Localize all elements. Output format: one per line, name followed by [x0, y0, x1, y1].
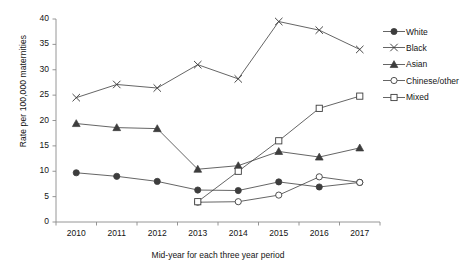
- legend-item-label: Chinese/other: [406, 76, 459, 86]
- series-black: [73, 18, 364, 102]
- legend-item-label: Mixed: [406, 92, 429, 102]
- open-square-icon: [383, 92, 405, 103]
- legend-item-label: White: [406, 27, 428, 37]
- legend-item-mixed[interactable]: Mixed: [383, 92, 459, 103]
- legend-item-asian[interactable]: Asian: [383, 59, 459, 70]
- open-circle-icon: [383, 75, 405, 86]
- series-white: [73, 170, 363, 194]
- filled-triangle-icon: [383, 59, 405, 70]
- axis-lines: [53, 19, 381, 226]
- filled-circle-icon: [383, 26, 405, 37]
- legend-item-white[interactable]: White: [383, 26, 459, 37]
- legend: WhiteBlackAsianChinese/otherMixed: [383, 26, 459, 103]
- legend-item-black[interactable]: Black: [383, 42, 459, 53]
- legend-item-chinese-other[interactable]: Chinese/other: [383, 75, 459, 86]
- series-layer: [72, 18, 363, 205]
- legend-item-label: Asian: [406, 59, 427, 69]
- series-asian: [72, 120, 363, 173]
- line-chart: Rate per 100,000 maternities Mid-year fo…: [0, 0, 468, 272]
- cross-icon: [383, 42, 405, 53]
- legend-item-label: Black: [406, 43, 427, 53]
